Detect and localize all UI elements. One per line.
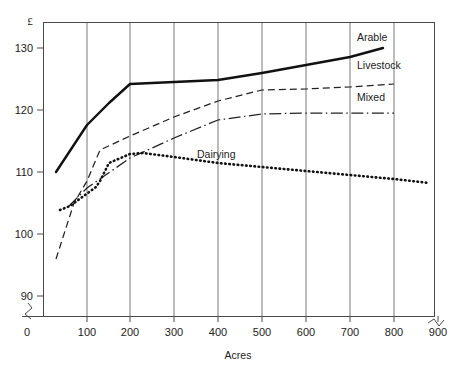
series-label-mixed: Mixed (357, 91, 385, 103)
xtick-label-700: 700 (341, 326, 359, 338)
xtick-label-100: 100 (78, 326, 96, 338)
ytick-label-100: 100 (15, 228, 33, 240)
chart-svg: £ 130 120 110 100 90 0 100 200 300 400 5… (0, 0, 463, 377)
x-axis-break-icon (428, 319, 444, 326)
series-line-dairying (60, 153, 429, 210)
series-line-livestock (56, 84, 394, 259)
series-label-arable: Arable (357, 31, 388, 43)
xtick-label-300: 300 (165, 326, 183, 338)
series-label-dairying: Dairying (197, 148, 236, 160)
ytick-label-90: 90 (21, 290, 33, 302)
xtick-label-400: 400 (209, 326, 227, 338)
xtick-label-200: 200 (121, 326, 139, 338)
xtick-label-600: 600 (297, 326, 315, 338)
xtick-label-800: 800 (385, 326, 403, 338)
xtick-label-0: 0 (24, 326, 30, 338)
ytick-label-120: 120 (15, 104, 33, 116)
ytick-label-110: 110 (15, 166, 33, 178)
y-tickmarks (37, 48, 44, 296)
xtick-label-500: 500 (253, 326, 271, 338)
series-label-livestock: Livestock (357, 59, 402, 71)
xtick-label-900: 900 (429, 326, 447, 338)
x-axis-title: Acres (225, 349, 252, 361)
chart-container: £ 130 120 110 100 90 0 100 200 300 400 5… (0, 0, 463, 377)
gridlines (87, 23, 394, 316)
y-axis-title: £ (27, 15, 33, 27)
ytick-label-130: 130 (15, 42, 33, 54)
